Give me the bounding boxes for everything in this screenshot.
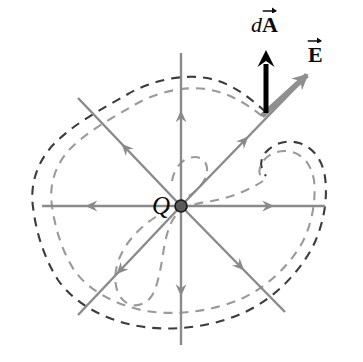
area-element-prefix: d [251,12,262,37]
electric-field-vector-label: E [308,44,323,66]
electric-field-vector-shaft [262,75,307,116]
area-element-symbol: A [262,12,278,37]
field-symbol: E [308,42,323,67]
field-line-down-right [181,206,285,312]
field-line-up-left [78,98,181,206]
point-charge-dot [175,200,187,212]
field-line-down-left [78,206,181,315]
area-element-vector-label: dA [251,14,278,36]
vector-group [258,50,314,116]
charge-label: Q [152,193,170,218]
charge-dot [175,200,187,212]
field-symbol-wrap: E [308,44,323,66]
gauss-law-figure: Q dA E [0,0,363,362]
area-element-symbol-wrap: A [262,14,278,36]
inner-surface-lobe [115,157,263,305]
